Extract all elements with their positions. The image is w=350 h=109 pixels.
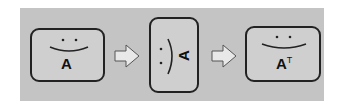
- right-arrow-icon: [113, 43, 141, 69]
- right-arrow-icon: [210, 43, 238, 69]
- smile-face-icon: [245, 28, 321, 58]
- matrix-a-transpose-box: AT: [245, 26, 321, 82]
- matrix-a-label: A: [61, 55, 72, 72]
- transpose-superscript: T: [287, 55, 293, 65]
- matrix-a-box: A: [30, 28, 105, 82]
- matrix-letter: A: [276, 55, 287, 72]
- matrix-a-rotated-label: A: [175, 50, 192, 61]
- matrix-a-rotated-box: A: [149, 17, 199, 93]
- matrix-a-transpose-label: AT: [276, 55, 292, 72]
